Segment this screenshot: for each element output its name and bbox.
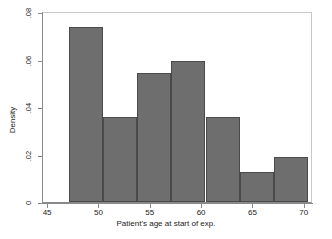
- y-tick-label: .08: [22, 6, 36, 20]
- y-tick-mark: [38, 13, 42, 14]
- x-axis-line: [42, 203, 313, 204]
- x-tick-label: 50: [94, 209, 103, 217]
- x-tick-label: 65: [248, 209, 257, 217]
- y-tick-label-text: .02: [25, 150, 33, 160]
- y-tick-mark: [38, 61, 42, 62]
- x-tick-label: 70: [299, 209, 308, 217]
- y-tick-label-text: .08: [25, 8, 33, 18]
- histogram-bar: [274, 157, 308, 202]
- y-axis-title-label: Density: [9, 106, 17, 133]
- y-axis-line: [42, 12, 43, 204]
- histogram-bar: [240, 172, 274, 202]
- y-tick-label-text: .06: [25, 55, 33, 65]
- histogram-bar: [206, 117, 240, 202]
- x-axis-title: Patient's age at start of exp.: [0, 220, 332, 228]
- y-tick-mark: [38, 156, 42, 157]
- y-tick-label-text: .04: [25, 103, 33, 113]
- histogram-bars: [43, 13, 311, 202]
- x-tick-label: 60: [197, 209, 206, 217]
- y-tick-label: .02: [22, 149, 36, 163]
- histogram-figure: 0.02.04.06.08 Density 455055606570 Patie…: [0, 0, 332, 239]
- histogram-bar: [69, 27, 103, 202]
- plot-area: [42, 12, 312, 203]
- y-tick-label: 0: [22, 196, 36, 210]
- x-tick-label: 55: [145, 209, 154, 217]
- y-tick-label: .04: [22, 101, 36, 115]
- y-axis-title: Density: [6, 80, 20, 160]
- y-tick-label-text: 0: [25, 201, 33, 205]
- y-tick-mark: [38, 108, 42, 109]
- y-tick-label: .06: [22, 54, 36, 68]
- histogram-bar: [103, 117, 137, 202]
- histogram-bar: [171, 61, 205, 202]
- histogram-bar: [137, 73, 171, 202]
- x-tick-label: 45: [43, 209, 52, 217]
